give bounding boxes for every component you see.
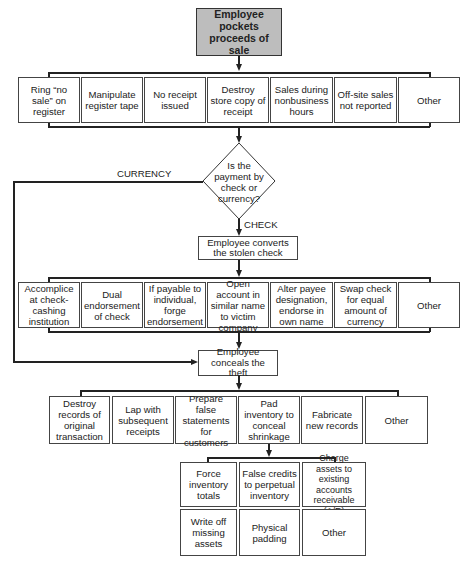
scheme-box: Open account in similar name to victim c… (207, 282, 269, 328)
scheme-label: Open account in similar name to victim c… (210, 278, 266, 333)
scheme-box: Dual endorsement of check (81, 282, 143, 328)
scheme-label: Destroy store copy of receipt (210, 84, 266, 117)
inventory-method-label: False credits to perpetual inventory (242, 468, 297, 501)
conceal-node: Employee conceals the theft (198, 350, 278, 376)
currency-line (13, 181, 15, 362)
arrow-right-icon (191, 359, 198, 365)
scheme-label: Other (417, 95, 441, 106)
inventory-method-box: Charge assets to existing accounts recei… (302, 462, 366, 507)
currency-line (13, 181, 203, 183)
conceal-method-box: Prepare false statements for customers (175, 396, 237, 444)
scheme-label: Ring “no sale” on register (21, 84, 77, 117)
conceal-method-box: Other (365, 396, 428, 444)
conceal-label: Employee conceals the theft (201, 347, 275, 379)
inventory-method-box: Write off missing assets (180, 509, 237, 556)
decision-question: Is the payment by check or currency? (212, 160, 266, 204)
conceal-method-label: Destroy records of original transaction (52, 398, 107, 442)
currency-line (13, 361, 193, 363)
conceal-method-label: Fabricate new records (304, 409, 360, 431)
arrow-down-icon (236, 383, 242, 390)
scheme-box: Swap check for equal amount of currency (334, 282, 397, 328)
arrow-down-icon (236, 270, 242, 277)
conceal-method-label: Prepare false statements for customers (178, 393, 234, 448)
scheme-box: Manipulate register tape (81, 77, 143, 123)
conceal-method-label: Other (385, 415, 409, 426)
arrow-down-icon (236, 229, 242, 236)
scheme-box: Ring “no sale” on register (18, 77, 80, 123)
scheme-box: If payable to individual, forge endorsem… (144, 282, 206, 328)
scheme-box: No receipt issued (144, 77, 206, 123)
inventory-method-box: Force inventory totals (180, 462, 237, 507)
inventory-method-label: Other (322, 527, 346, 538)
scheme-label: Dual endorsement of check (84, 289, 140, 322)
scheme-label: Sales during nonbusiness hours (273, 84, 330, 117)
scheme-box: Destroy store copy of receipt (207, 77, 269, 123)
conceal-method-label: Lap with subsequent receipts (115, 404, 171, 437)
scheme-label: If payable to individual, forge endorsem… (147, 283, 203, 327)
arrow-down-icon (266, 450, 272, 457)
bracket-top (48, 72, 430, 74)
conceal-method-box: Destroy records of original transaction (49, 396, 110, 444)
scheme-label: Swap check for equal amount of currency (337, 283, 394, 327)
inventory-method-label: Write off missing assets (183, 516, 234, 549)
scheme-box: Other (398, 77, 460, 123)
convert-label: Employee converts the stolen check (201, 238, 295, 259)
check-label: CHECK (244, 219, 278, 230)
scheme-box: Other (398, 282, 460, 328)
inventory-method-label: Force inventory totals (183, 468, 234, 501)
conceal-method-box: Pad inventory to conceal shrinkage (238, 396, 300, 444)
start-label: Employee pockets proceeds of sale (199, 8, 279, 56)
scheme-label: Manipulate register tape (84, 89, 140, 111)
scheme-box: Off-site sales not reported (334, 77, 397, 123)
conceal-method-box: Fabricate new records (301, 396, 363, 444)
scheme-label: No receipt issued (147, 89, 203, 111)
scheme-label: Off-site sales not reported (337, 89, 394, 111)
convert-node: Employee converts the stolen check (198, 236, 298, 260)
inventory-method-label: Physical padding (242, 522, 297, 544)
scheme-box: Sales during nonbusiness hours (270, 77, 333, 123)
scheme-label: Other (417, 300, 441, 311)
currency-label: CURRENCY (117, 168, 171, 179)
scheme-box: Alter payee designation, endorse in own … (270, 282, 333, 328)
conceal-method-label: Pad inventory to conceal shrinkage (241, 398, 297, 442)
bracket-top (80, 390, 398, 392)
inventory-method-box: False credits to perpetual inventory (239, 462, 300, 507)
arrow-down-icon (236, 64, 242, 71)
scheme-box: Accomplice at check-cashing institution (18, 282, 80, 328)
conceal-method-box: Lap with subsequent receipts (112, 396, 174, 444)
start-node: Employee pockets proceeds of sale (196, 8, 282, 56)
scheme-label: Alter payee designation, endorse in own … (273, 283, 330, 327)
scheme-label: Accomplice at check-cashing institution (21, 283, 77, 327)
inventory-method-box: Physical padding (239, 509, 300, 556)
inventory-method-box: Other (302, 509, 366, 556)
inventory-method-label: Charge assets to existing accounts recei… (305, 453, 363, 516)
